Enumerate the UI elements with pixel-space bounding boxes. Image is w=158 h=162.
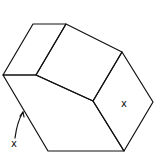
- arrow-icon: [15, 112, 23, 138]
- face-label: x: [121, 98, 127, 109]
- face-label-text: x: [121, 98, 127, 109]
- edge-label-text: x: [11, 138, 17, 149]
- top-face: [3, 24, 66, 75]
- prism-edges: [3, 24, 153, 151]
- prism-diagram: x x: [0, 0, 158, 162]
- edge-label: x: [11, 112, 24, 149]
- upper-face: [36, 24, 122, 101]
- front-face: [3, 75, 124, 151]
